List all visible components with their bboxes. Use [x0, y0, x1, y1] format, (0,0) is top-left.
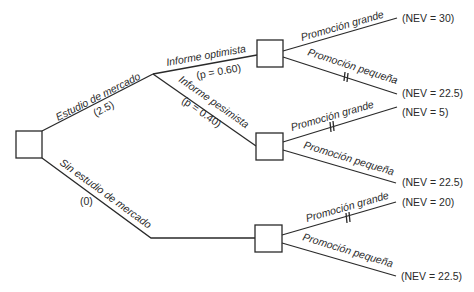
decision-tree: Estudio de mercado (2.5) Informe optimis… — [0, 0, 474, 292]
label-b-pequena: Promoción pequeña — [302, 138, 396, 177]
nev-a-grande: (NEV = 30) — [402, 12, 454, 24]
label-c-pequena: Promoción pequeña — [301, 230, 395, 269]
nev-a-pequena: (NEV = 22.5) — [402, 87, 463, 99]
nev-b-grande: (NEV = 5) — [402, 106, 448, 118]
label-sin-estudio: Sin estudio de mercado — [58, 156, 154, 231]
pruned-marker-icon — [346, 212, 350, 223]
label-b-grande: Promoción grande — [289, 98, 375, 133]
cost-sin-estudio: (0) — [80, 195, 93, 207]
decision-node-sin-estudio — [255, 225, 282, 252]
nev-c-grande: (NEV = 20) — [402, 196, 454, 208]
decision-node-optimista — [257, 40, 283, 67]
prob-optimista: (p = 0.60) — [195, 61, 242, 81]
decision-node-pesimista — [256, 133, 283, 160]
root-decision-node — [16, 131, 42, 158]
nev-c-pequena: (NEV = 22.5) — [401, 270, 462, 282]
nev-b-pequena: (NEV = 22.5) — [402, 176, 463, 188]
